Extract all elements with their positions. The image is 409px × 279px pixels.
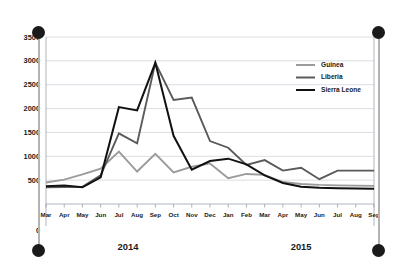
x-axis-label-7: Oct xyxy=(168,211,178,218)
x-tick-marks xyxy=(46,204,374,208)
x-axis-label-3: Jun xyxy=(95,211,106,218)
x-axis-label-11: Feb xyxy=(241,211,252,218)
year-group-labels: 20142015 xyxy=(118,241,312,252)
line-chart: 0500100015002000250030003500 MarAprMayJu… xyxy=(0,0,409,279)
selection-handle-top-left[interactable] xyxy=(32,26,45,39)
screenshot-canvas: 0500100015002000250030003500 MarAprMayJu… xyxy=(0,0,409,279)
legend-label-guinea: Guinea xyxy=(321,61,344,68)
x-axis-label-12: Mar xyxy=(259,211,271,218)
selection-frame-right-edge[interactable] xyxy=(378,33,380,250)
selection-handle-top-right[interactable] xyxy=(372,26,385,39)
year-label-2014: 2014 xyxy=(118,241,140,252)
x-axis-label-2: May xyxy=(76,211,89,218)
x-axis-label-5: Aug xyxy=(131,211,143,218)
series-line-liberia xyxy=(46,63,374,188)
x-axis-label-17: Aug xyxy=(350,211,362,218)
x-axis-label-8: Nov xyxy=(186,211,198,218)
x-axis-label-1: Apr xyxy=(59,211,70,218)
x-axis-label-16: Jul xyxy=(333,211,342,218)
legend-label-sierra-leone: Sierra Leone xyxy=(321,86,361,93)
selection-handle-bottom-left[interactable] xyxy=(32,244,45,257)
x-axis-label-9: Dec xyxy=(204,211,216,218)
data-series xyxy=(46,63,374,189)
x-axis-label-6: Sep xyxy=(150,211,162,218)
x-axis-label-0: Mar xyxy=(40,211,52,218)
chart-svg: 0500100015002000250030003500 MarAprMayJu… xyxy=(0,0,409,279)
selection-frame-left-edge[interactable] xyxy=(38,33,40,250)
chart-legend: GuineaLiberiaSierra Leone xyxy=(296,61,361,93)
legend-label-liberia: Liberia xyxy=(321,73,343,80)
x-axis-label-10: Jan xyxy=(223,211,234,218)
year-label-2015: 2015 xyxy=(291,241,312,252)
x-axis-label-13: Apr xyxy=(278,211,289,218)
x-axis-label-14: May xyxy=(295,211,308,218)
selection-handle-bottom-right[interactable] xyxy=(372,244,385,257)
x-axis-label-15: Jun xyxy=(314,211,325,218)
x-axis-labels: MarAprMayJunJulAugSepOctNovDecJanFebMarA… xyxy=(40,211,379,218)
gridlines xyxy=(46,37,374,180)
x-axis-label-4: Jul xyxy=(114,211,123,218)
